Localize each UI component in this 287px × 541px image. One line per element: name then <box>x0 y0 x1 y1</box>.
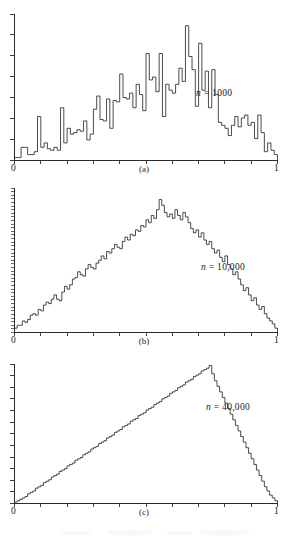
sample-size-value-b: 10,000 <box>217 262 245 272</box>
sample-size-label-c: n = 40,000 <box>206 402 250 412</box>
figure-container: n = 1000 0 1 (a) n = 10,000 0 1 (b) n = … <box>0 0 287 541</box>
histogram-panel-c: n = 40,000 0 1 (c) <box>0 358 287 541</box>
panel-caption-a: (a) <box>124 164 164 174</box>
histogram-panel-b: n = 10,000 0 1 (b) <box>0 178 287 360</box>
x-axis-min-label-b: 0 <box>11 335 16 345</box>
sample-size-equals-b: = <box>206 262 217 272</box>
sample-size-equals-a: = <box>201 88 212 98</box>
x-axis-max-label-c: 1 <box>274 506 279 516</box>
x-axis-min-label-c: 0 <box>11 506 16 516</box>
x-axis-max-label-a: 1 <box>274 163 279 173</box>
histogram-panel-a: n = 1000 0 1 (a) <box>0 0 287 180</box>
sample-size-value-c: 40,000 <box>222 402 250 412</box>
x-axis-min-label-a: 0 <box>11 163 16 173</box>
x-axis-max-label-b: 1 <box>274 335 279 345</box>
sample-size-label-a: n = 1000 <box>196 88 232 98</box>
sample-size-equals-c: = <box>211 402 222 412</box>
histogram-plot-a <box>0 0 287 180</box>
panel-caption-c: (c) <box>124 507 164 517</box>
panel-caption-b: (b) <box>124 336 164 346</box>
sample-size-value-a: 1000 <box>212 88 232 98</box>
sample-size-label-b: n = 10,000 <box>201 262 245 272</box>
